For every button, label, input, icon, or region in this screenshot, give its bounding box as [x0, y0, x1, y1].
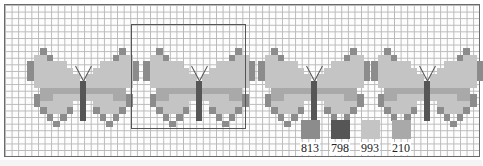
swatch-813: [301, 120, 320, 139]
stitch: [371, 68, 378, 75]
stitch: [113, 81, 120, 88]
stitch: [34, 61, 41, 68]
stitch: [291, 74, 298, 81]
stitch: [271, 68, 278, 75]
swatch-label-993: 993: [360, 142, 380, 155]
stitch: [284, 107, 291, 114]
stitch: [47, 101, 54, 108]
stitch: [100, 107, 107, 114]
stitch: [391, 81, 398, 88]
stitch: [119, 61, 126, 68]
stitch: [113, 114, 120, 121]
stitch: [27, 74, 34, 81]
stitch: [391, 88, 398, 95]
stitch: [47, 94, 54, 101]
stitch: [113, 107, 120, 114]
stitch: [53, 94, 60, 101]
swatch-label-210: 210: [391, 142, 411, 155]
stitch: [457, 74, 464, 81]
stitch: [298, 81, 305, 88]
stitch: [470, 81, 477, 88]
stitch: [391, 74, 398, 81]
stitch: [284, 121, 291, 128]
stitch: [47, 107, 54, 114]
stitch: [437, 81, 444, 88]
stitch: [100, 114, 107, 121]
stitch: [298, 101, 305, 108]
stitch: [404, 107, 411, 114]
stitch: [324, 94, 331, 101]
stitch: [80, 88, 87, 95]
stitch: [430, 81, 437, 88]
stitch: [291, 81, 298, 88]
stitch: [364, 61, 371, 68]
stitch: [450, 107, 457, 114]
stitch: [60, 101, 67, 108]
stitch: [437, 94, 444, 101]
stitch: [298, 88, 305, 95]
stitch: [271, 94, 278, 101]
stitch: [60, 74, 67, 81]
stitch: [444, 61, 451, 68]
stitch: [113, 61, 120, 68]
stitch: [100, 101, 107, 108]
stitch: [278, 68, 285, 75]
stitch: [397, 88, 404, 95]
stitch: [53, 121, 60, 128]
stitch: [93, 94, 100, 101]
stitch: [93, 101, 100, 108]
stitch: [60, 61, 67, 68]
stitch: [106, 101, 113, 108]
stitch: [397, 61, 404, 68]
stitch: [113, 55, 120, 62]
stitch: [298, 74, 305, 81]
stitch: [357, 74, 364, 81]
stitch: [60, 107, 67, 114]
stitch: [364, 74, 371, 81]
stitch: [477, 74, 483, 81]
stitch: [357, 101, 364, 108]
stitch: [106, 88, 113, 95]
stitch: [258, 74, 265, 81]
stitch: [40, 101, 47, 108]
stitch: [378, 55, 385, 62]
stitch: [265, 61, 272, 68]
stitch: [457, 81, 464, 88]
stitch: [450, 61, 457, 68]
stitch: [27, 68, 34, 75]
stitch: [430, 88, 437, 95]
stitch: [463, 68, 470, 75]
stitch: [344, 55, 351, 62]
stitch: [350, 68, 357, 75]
stitch: [444, 68, 451, 75]
stitch: [417, 81, 424, 88]
stitch: [40, 107, 47, 114]
stitch: [470, 61, 477, 68]
stitch: [384, 81, 391, 88]
stitch: [437, 88, 444, 95]
stitch: [463, 101, 470, 108]
stitch: [34, 101, 41, 108]
stitch: [298, 94, 305, 101]
stitch: [337, 68, 344, 75]
stitch: [411, 68, 418, 75]
stitch: [284, 88, 291, 95]
stitch: [384, 61, 391, 68]
stitch: [86, 81, 93, 88]
stitch: [80, 114, 87, 121]
stitch: [411, 88, 418, 95]
stitch: [463, 55, 470, 62]
stitch: [40, 55, 47, 62]
stitch: [271, 55, 278, 62]
stitch: [411, 74, 418, 81]
stitch: [284, 94, 291, 101]
stitch: [278, 94, 285, 101]
stitch: [350, 48, 357, 55]
stitch: [350, 55, 357, 62]
stitch: [404, 68, 411, 75]
stitch: [411, 94, 418, 101]
stitch: [73, 88, 80, 95]
stitch: [119, 74, 126, 81]
stitch: [331, 61, 338, 68]
stitch: [34, 81, 41, 88]
